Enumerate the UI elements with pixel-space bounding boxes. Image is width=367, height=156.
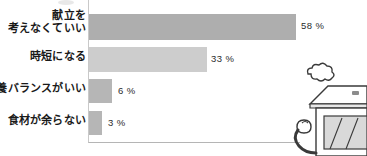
value-label: 33 % [211, 53, 234, 64]
category-label: 献立を 考えなくていい [0, 9, 86, 35]
person-with-rice-cooker-illustration [290, 60, 367, 156]
appliance-lid [310, 86, 367, 104]
appliance-window [324, 116, 367, 149]
bar-chart-figure: 献立を 考えなくていい 58 % 時短になる 33 % 栄養バランスがいい 6 … [0, 0, 367, 156]
bar-fill [89, 14, 296, 40]
bar-0 [89, 14, 296, 40]
steam-cloud-icon [308, 63, 335, 81]
value-label: 58 % [301, 20, 324, 31]
bar-fill [89, 47, 207, 72]
bar-2 [89, 79, 112, 103]
value-label: 3 % [108, 117, 126, 128]
bar-1 [89, 47, 207, 72]
bar-fill [89, 79, 112, 103]
chart-row: 献立を 考えなくていい 58 % [0, 11, 367, 41]
bar-fill [89, 111, 102, 135]
value-label: 6 % [118, 85, 136, 96]
category-label: 栄養バランスがいい [0, 82, 86, 95]
illustration-svg [290, 60, 367, 156]
bar-3 [89, 111, 102, 135]
scan-artifact [58, 0, 74, 5]
category-label: 食材が余らない [0, 114, 86, 127]
category-label: 時短になる [0, 50, 86, 63]
indicator-light [352, 91, 359, 95]
